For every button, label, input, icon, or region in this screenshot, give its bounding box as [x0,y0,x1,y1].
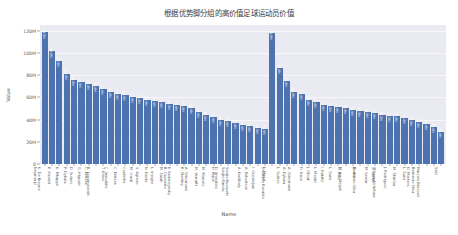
x-axis-tick-label: M. Škriniar [391,167,395,186]
bar[interactable]: 93.0M [56,61,62,164]
bar[interactable]: 67.5M [100,89,106,164]
bar[interactable]: 36.0M [423,124,429,164]
bar[interactable]: 41.0M [401,118,407,164]
bar[interactable]: 56.0M [313,102,319,164]
bar[interactable]: 43.0M [394,116,400,164]
bar[interactable]: 60.5M [130,97,136,164]
bar[interactable]: 63.0M [299,94,305,164]
bar-value-label: 58.0M [306,96,309,106]
bar[interactable]: 34.0M [247,126,253,164]
x-axis-tick-label: Marcelo Brozović [415,167,419,197]
bar[interactable]: 42.0M [210,117,216,164]
bar[interactable]: 58.0M [306,100,312,164]
bar-value-label: 72.0M [86,80,89,90]
bar[interactable]: 102.0M [49,51,55,164]
bar[interactable]: 73.5M [78,82,84,164]
bar[interactable]: 72.0M [86,84,92,164]
bar-value-label: 43.5M [387,112,390,122]
x-axis-tick-label: M. Icardi [129,167,133,182]
bar[interactable]: 56.5M [152,101,158,164]
bar[interactable]: 44.5M [379,115,385,164]
x-axis-tick-label: E. Kudanzynsky [167,167,171,195]
bar[interactable]: 43.5M [387,116,393,164]
x-axis-tick-label: R. Lewandowski [86,167,90,196]
bar[interactable]: 29.0M [438,132,444,164]
x-axis-tick-mark [88,164,89,166]
x-axis-tick-mark [441,164,442,166]
bar[interactable]: 47.0M [196,112,202,164]
y-axis-tick-label: 120M [23,28,36,33]
x-axis-tick-mark [59,164,60,166]
x-axis-tick-label: H. Kane [298,167,302,181]
bar[interactable]: 59.0M [137,98,143,164]
bar-value-label: 45.5M [372,110,375,120]
bar-value-label: 62.0M [122,91,125,101]
x-axis-tick-label: M. Salah [158,167,162,182]
bar-value-label: 73.5M [78,79,81,89]
bar[interactable]: 39.5M [409,120,415,164]
bar[interactable]: 50.0M [343,108,349,164]
bar[interactable]: 51.0M [335,107,341,164]
bar[interactable]: 65.0M [108,92,114,164]
x-axis-tick-mark [294,164,295,166]
bar[interactable]: 62.0M [122,95,128,164]
bar-value-label: 38.5M [225,117,228,127]
bar-value-label: 63.0M [115,90,118,100]
y-axis-tick-label: 100M [23,50,36,55]
x-axis-tick-label: M. Marcelo [200,167,204,186]
bar[interactable]: 53.5M [321,105,327,164]
bar[interactable]: 46.5M [365,112,371,164]
chart-figure: 根据优势脚分组的高价值足球运动员价值 Value 020M40M60M80M10… [0,0,458,235]
bar[interactable]: 86.0M [277,68,283,164]
bar[interactable]: 44.5M [203,115,209,164]
bars-layer: 118.5M102.0M93.0M81.0M76.0M73.5M72.0M70.… [40,25,446,164]
bar[interactable]: 70.0M [93,86,99,164]
bar[interactable]: 38.0M [416,122,422,164]
bar[interactable]: 57.5M [144,100,150,164]
bar[interactable]: 75.0M [284,81,290,164]
x-axis-tick-mark [345,164,346,166]
bar[interactable]: 50.0M [188,108,194,164]
bar[interactable]: 33.0M [431,127,437,164]
x-axis-tick-label: I. Rakitić [320,167,324,182]
bar[interactable]: 47.5M [357,111,363,164]
x-axis-tick-label: Coutinho [121,167,125,183]
x-axis-tick-label: Saúl [434,167,438,175]
bar[interactable]: 65.0M [291,92,297,164]
x-axis-tick-mark [382,164,383,166]
bar[interactable]: 37.0M [232,123,238,164]
x-axis-tick-label: K. Mbappé [54,167,58,186]
bar[interactable]: 63.0M [115,94,121,164]
x-axis-tick-mark [367,164,368,166]
bar[interactable]: 35.5M [240,125,246,164]
x-axis-tick-label: A. Griezmann [286,167,290,191]
bar[interactable]: 54.0M [166,104,172,164]
x-axis-tick-mark [176,164,177,166]
x-axis-tick-label: N. Kanté [144,167,148,182]
x-axis-tick-label: A. Robertson [243,167,247,190]
bar[interactable]: 76.0M [71,80,77,165]
bar[interactable]: 53.0M [174,105,180,164]
x-axis-tick-mark [125,164,126,166]
y-axis-tick-label: 40M [26,117,36,122]
x-axis-tick-mark [96,164,97,166]
x-axis-tick-mark [411,164,412,166]
bar[interactable]: 55.5M [159,102,165,164]
bar[interactable]: 118.5M [42,32,48,164]
bar[interactable]: 32.5M [255,128,261,164]
x-axis-tick-label: L. Suárez [275,167,279,184]
x-axis-tick-mark [118,164,119,166]
bar[interactable]: 40.0M [218,120,224,164]
bar[interactable]: 38.5M [225,121,231,164]
bar[interactable]: 118.0M [269,33,275,164]
bar[interactable]: 52.0M [328,106,334,164]
bar[interactable]: 52.0M [181,106,187,164]
bar-value-label: 31.5M [262,125,265,135]
bar[interactable]: 45.5M [372,113,378,164]
bar[interactable]: 81.0M [64,74,70,164]
bar[interactable]: 31.5M [262,129,268,164]
bar[interactable]: 48.5M [350,110,356,164]
x-axis-tick-mark [103,164,104,166]
x-axis-tick-label: Bernardo Silva [351,167,355,193]
x-axis-tick: G. Bale [343,164,349,209]
